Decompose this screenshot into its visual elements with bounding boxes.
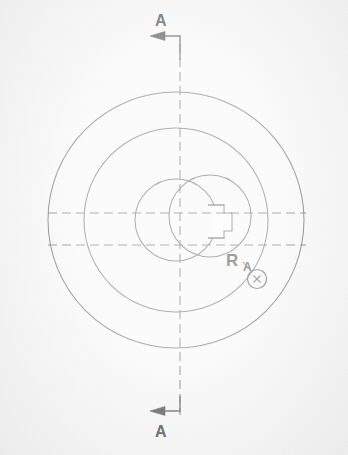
radius-dimension-label: R xyxy=(226,251,238,271)
section-mark-top-line xyxy=(163,36,180,60)
section-mark-bottom-line xyxy=(163,396,180,411)
section-arrow-top xyxy=(150,32,165,41)
technical-drawing xyxy=(0,0,348,455)
angle-dimension-label: A xyxy=(243,260,252,274)
middle-diameter-circle xyxy=(84,128,268,312)
hub-bore-circle xyxy=(135,179,217,261)
keyway-mask xyxy=(209,206,233,237)
outer-diameter-circle xyxy=(48,92,304,348)
section-label-bottom: A xyxy=(155,423,167,441)
section-arrow-bottom xyxy=(150,407,165,416)
section-label-top: A xyxy=(155,12,167,30)
drawing-canvas: A A R A xyxy=(0,0,348,455)
